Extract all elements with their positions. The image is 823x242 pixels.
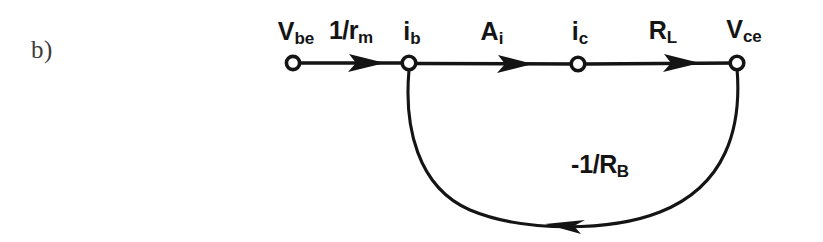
feedback-arc-rb xyxy=(408,68,738,227)
branch-label-rl-sub: L xyxy=(667,28,677,47)
node-label-vce-sub: ce xyxy=(743,27,762,46)
branch-label-rb-base: 1/R xyxy=(579,150,616,178)
branch-line-rl xyxy=(585,63,737,64)
node-label-ic: ic xyxy=(572,17,588,46)
branch-label-ai: Ai xyxy=(481,17,504,46)
figure-part-label: b) xyxy=(31,36,53,64)
node-label-ib: ib xyxy=(403,17,420,46)
node-label-vce: Vce xyxy=(726,15,762,44)
node-label-vbe: Vbe xyxy=(278,17,315,46)
branch-label-ai-base: A xyxy=(481,17,499,45)
branch-label-gm-base: 1/r xyxy=(329,16,358,44)
signal-flow-graph-figure: b) Vbe ib ic Vce 1/rm Ai RL -1/RB xyxy=(0,0,823,242)
branch-label-rl-base: R xyxy=(649,16,667,44)
node-ib[interactable] xyxy=(402,56,416,70)
node-vbe[interactable] xyxy=(286,56,299,69)
node-ic[interactable] xyxy=(571,57,585,71)
branch-label-rb: -1/RB xyxy=(571,150,629,179)
branch-label-rb-sub: B xyxy=(617,162,629,181)
node-label-ic-sub: c xyxy=(579,29,588,48)
branch-label-rl: RL xyxy=(649,16,677,45)
node-vce[interactable] xyxy=(730,56,744,70)
node-label-vbe-sub: be xyxy=(294,29,314,48)
branch-label-ai-sub: i xyxy=(499,29,504,48)
branch-label-gm-sub: m xyxy=(358,28,373,47)
branch-line-ai xyxy=(416,64,578,65)
node-label-ib-sub: b xyxy=(410,29,420,48)
branch-label-gm: 1/rm xyxy=(329,16,373,45)
node-label-ib-base: i xyxy=(403,17,410,45)
node-label-vbe-base: V xyxy=(278,17,295,45)
node-label-vce-base: V xyxy=(726,15,743,43)
node-label-ic-base: i xyxy=(572,17,579,45)
